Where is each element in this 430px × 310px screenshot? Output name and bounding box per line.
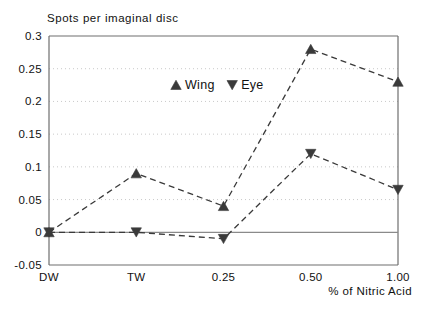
y-tick-label: 0.1 (25, 161, 42, 173)
y-tick-label: 0 (35, 226, 42, 238)
y-tick-label: 0.2 (25, 95, 42, 107)
data-point-marker-wing (131, 169, 141, 178)
x-tick-label: 0.25 (212, 271, 236, 283)
data-point-marker-wing (306, 44, 316, 53)
y-tick-label: 0.25 (18, 63, 42, 75)
data-series-group (44, 44, 403, 243)
x-tick-label: 0.50 (299, 271, 323, 283)
chart-legend: WingEye (171, 78, 264, 92)
chart-container: Spots per imaginal disc 0.30.250.20.150.… (0, 0, 430, 310)
x-axis-tick-labels: DWTW0.250.501.00 (39, 271, 410, 283)
x-tick-label: TW (127, 271, 145, 283)
legend-marker-wing (171, 80, 181, 89)
y-axis-tick-labels: 0.30.250.20.150.10.050-0.05 (14, 30, 42, 271)
legend-label-wing: Wing (185, 78, 215, 92)
data-point-marker-eye (393, 185, 403, 194)
x-tick-label: 1.00 (386, 271, 410, 283)
axes-group (49, 36, 398, 265)
y-tick-label: 0.05 (18, 194, 42, 206)
data-point-marker-wing (393, 77, 403, 86)
x-axis-title: % of Nitric Acid (328, 285, 412, 297)
legend-label-eye: Eye (241, 78, 263, 92)
x-tick-label: DW (39, 271, 59, 283)
data-point-marker-wing (218, 201, 228, 210)
y-tick-label: 0.15 (18, 128, 42, 140)
gridlines-group (49, 69, 398, 200)
y-tick-label: 0.3 (25, 30, 42, 42)
line-chart-plot: 0.30.250.20.150.10.050-0.05 DWTW0.250.50… (0, 0, 430, 310)
y-tick-label: -0.05 (14, 259, 42, 271)
legend-marker-eye (227, 81, 237, 90)
